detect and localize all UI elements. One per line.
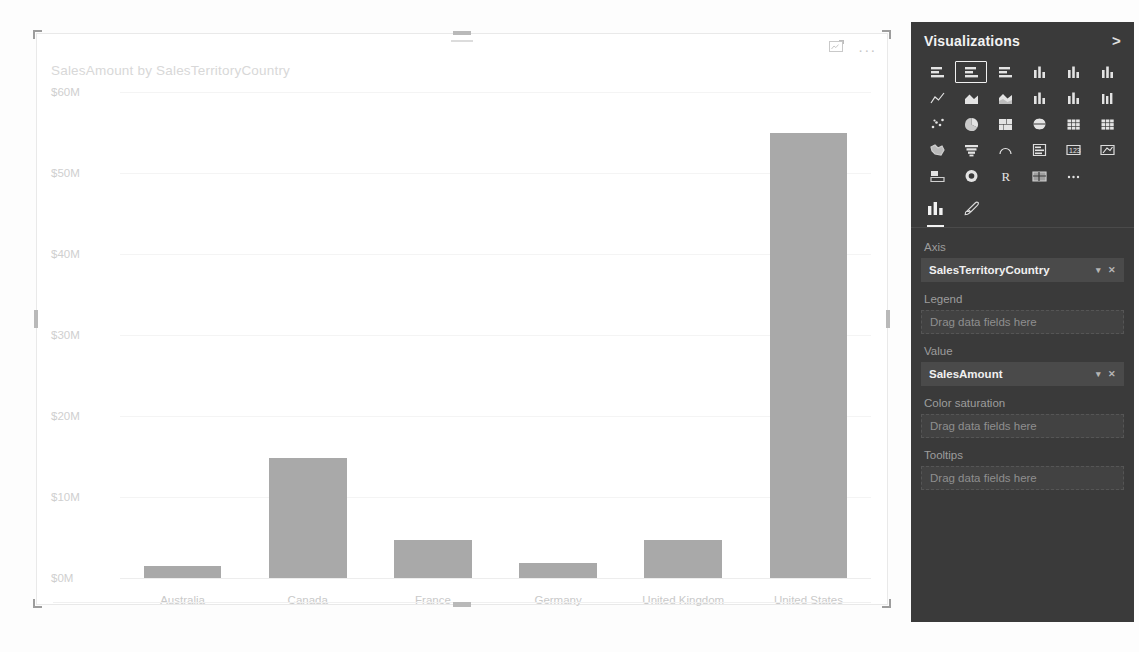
y-axis-tick-label: $40M [51,248,80,260]
resize-handle-middle-left[interactable] [34,310,38,328]
y-axis-tick-label: $60M [51,86,80,98]
well-value: SalesTerritoryCountry [929,264,1050,276]
stacked-area-chart-icon[interactable] [989,87,1021,109]
pie-chart-icon[interactable] [955,113,987,135]
more-visuals-icon[interactable] [1058,165,1090,187]
resize-handle-top-center[interactable] [453,31,471,35]
visual-header-icons: ... [829,40,877,53]
chart-plot-area: $60M$50M$40M$30M$20M$10M$0MAustraliaCana… [37,34,887,604]
visualizations-pane-header: Visualizations > [911,22,1134,58]
well-dropzone-empty[interactable]: Drag data fields here [921,466,1124,490]
line-chart-icon[interactable] [921,87,953,109]
ribbon-chart-icon[interactable] [1092,87,1124,109]
x-axis-labels: AustraliaCanadaFranceGermanyUnited Kingd… [120,594,871,606]
well-field-controls: ▾✕ [1096,369,1116,379]
pane-tabs [911,193,1134,228]
chart-visual-container[interactable]: ... SalesAmount by SalesTerritoryCountry… [36,33,888,605]
well-label: Tooltips [911,440,1134,466]
well-value: SalesAmount [929,368,1003,380]
y-axis-tick-label: $20M [51,410,80,422]
gauge-icon[interactable] [989,139,1021,161]
bar-slot [120,92,245,578]
kpi-icon[interactable] [1092,139,1124,161]
filled-map-icon[interactable] [921,139,953,161]
resize-handle-middle-right[interactable] [886,310,890,328]
line-and-stacked-column-chart-icon[interactable] [1024,87,1056,109]
x-axis-tick-label[interactable]: United Kingdom [621,594,746,606]
x-axis-tick-label[interactable]: Australia [120,594,245,606]
well-dropzone-empty[interactable]: Drag data fields here [921,310,1124,334]
bar[interactable] [770,133,848,579]
tab-fields[interactable] [927,201,944,227]
bar[interactable] [269,458,347,578]
card-icon[interactable]: 123 [1058,139,1090,161]
y-axis-tick-label: $0M [51,572,73,584]
matrix-icon[interactable] [1058,113,1090,135]
table-icon[interactable] [1092,113,1124,135]
svg-text:R: R [1001,169,1010,184]
x-axis-tick-label[interactable]: Canada [245,594,370,606]
resize-handle-top-left[interactable] [33,30,42,39]
bar[interactable] [519,563,597,578]
well-value: Drag data fields here [930,472,1037,484]
visualizations-pane: Visualizations > 123R AxisSalesTerritory… [911,22,1134,622]
y-axis-tick-label: $10M [51,491,80,503]
resize-handle-bottom-right[interactable] [882,599,891,608]
well-field-chip[interactable]: SalesTerritoryCountry▾✕ [921,258,1124,282]
bar-slot [370,92,495,578]
bar-slot [496,92,621,578]
resize-handle-bottom-center[interactable] [453,602,471,607]
more-options-icon[interactable]: ... [858,43,877,51]
well-label: Value [911,336,1134,362]
x-axis-tick-label[interactable]: Germany [496,594,621,606]
multi-row-card-icon[interactable] [1024,139,1056,161]
visualizations-pane-title: Visualizations [924,33,1020,49]
well-field-chip[interactable]: SalesAmount▾✕ [921,362,1124,386]
resize-handle-bottom-left[interactable] [33,599,42,608]
remove-field-icon[interactable]: ✕ [1108,265,1116,275]
stacked-bar-chart-icon[interactable] [921,61,953,83]
slicer-icon[interactable] [921,165,953,187]
tab-format[interactable] [962,201,980,227]
x-axis-tick-label[interactable]: France [370,594,495,606]
map-icon[interactable] [1024,113,1056,135]
line-and-clustered-column-chart-icon[interactable] [1058,87,1090,109]
chevron-right-icon[interactable]: > [1112,32,1121,49]
bar-slot [245,92,370,578]
x-axis-tick-label[interactable]: United States [746,594,871,606]
chevron-down-icon[interactable]: ▾ [1096,265,1101,275]
visualization-type-grid: 123R [911,58,1134,193]
chevron-down-icon[interactable]: ▾ [1096,369,1101,379]
hundred-percent-stacked-bar-chart-icon[interactable] [989,61,1021,83]
area-chart-icon[interactable] [955,87,987,109]
field-wells: AxisSalesTerritoryCountry▾✕LegendDrag da… [911,228,1134,490]
well-value: Drag data fields here [930,420,1037,432]
hundred-percent-stacked-column-chart-icon[interactable] [1092,61,1124,83]
scatter-chart-icon[interactable] [921,113,953,135]
bar[interactable] [144,566,222,578]
funnel-chart-icon[interactable] [955,139,987,161]
bar-slot [621,92,746,578]
shape-map-icon[interactable] [1024,165,1056,187]
r-script-visual-icon[interactable]: R [989,165,1021,187]
x-axis-line [120,578,871,579]
well-label: Axis [911,232,1134,258]
bar-series [120,92,871,578]
stacked-column-chart-icon[interactable] [1024,61,1056,83]
well-label: Color saturation [911,388,1134,414]
bar[interactable] [644,540,722,578]
clustered-bar-chart-icon[interactable] [955,61,987,83]
paintbrush-icon [962,201,980,216]
bar[interactable] [394,540,472,578]
donut-chart-icon[interactable] [955,165,987,187]
y-axis-tick-label: $30M [51,329,80,341]
well-value: Drag data fields here [930,316,1037,328]
bar-slot [746,92,871,578]
treemap-icon[interactable] [989,113,1021,135]
clustered-column-chart-icon[interactable] [1058,61,1090,83]
resize-handle-top-right[interactable] [882,30,891,39]
remove-field-icon[interactable]: ✕ [1108,369,1116,379]
focus-mode-icon[interactable] [829,40,844,53]
bar-chart-icon [927,201,944,216]
well-dropzone-empty[interactable]: Drag data fields here [921,414,1124,438]
